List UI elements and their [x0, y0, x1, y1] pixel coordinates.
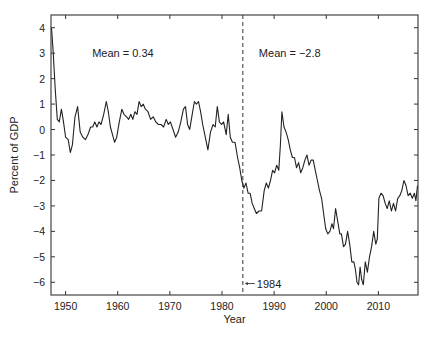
y-axis-label: Percent of GDP: [8, 116, 20, 193]
x-tick-label: 1990: [262, 300, 286, 312]
y-tick-label: −6: [33, 276, 45, 288]
y-tick-label: 4: [39, 22, 45, 34]
y-tick-label: 0: [39, 124, 45, 136]
x-tick-label: 2000: [315, 300, 339, 312]
y-tick-label: −3: [33, 200, 45, 212]
y-tick-label: −1: [33, 149, 45, 161]
x-axis-label: Year: [223, 313, 246, 325]
y-tick-label: 3: [39, 47, 45, 59]
y-tick-label: −4: [33, 225, 45, 237]
y-tick-label: 1: [39, 98, 45, 110]
x-tick-label: 1970: [158, 300, 182, 312]
x-tick-label: 1980: [210, 300, 234, 312]
x-tick-label: 1960: [106, 300, 130, 312]
x-tick-label: 1950: [54, 300, 78, 312]
annotation-mean-pre-1984: Mean = 0.34: [92, 47, 153, 59]
chart: 195019601970198019902000201043210−1−2−3−…: [0, 0, 432, 337]
y-tick-label: −5: [33, 251, 45, 263]
annotation-1984: 1984: [257, 278, 281, 290]
annotation-mean-post-1984: Mean = −2.8: [259, 47, 321, 59]
chart-background: [0, 0, 432, 337]
y-tick-label: −2: [33, 174, 45, 186]
x-tick-label: 2010: [367, 300, 391, 312]
y-tick-label: 2: [39, 73, 45, 85]
